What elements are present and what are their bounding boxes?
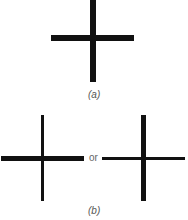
cross-b-left-horizontal-stroke: [1, 156, 84, 161]
or-connector: or: [89, 153, 98, 163]
panel-b-label: (b): [88, 206, 100, 216]
cross-a-vertical-stroke: [90, 0, 96, 82]
panel-a-label: (a): [88, 90, 100, 100]
cross-a-horizontal-stroke: [51, 35, 134, 41]
cross-b-right-horizontal-stroke: [102, 157, 185, 160]
